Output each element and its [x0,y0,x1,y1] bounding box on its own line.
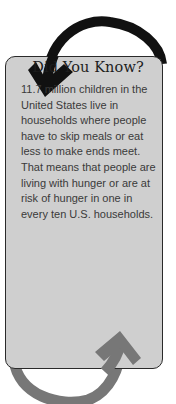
callout-body: 11.7 million children in the United Stat… [21,82,159,222]
callout-title: Did You Know? [0,59,176,75]
